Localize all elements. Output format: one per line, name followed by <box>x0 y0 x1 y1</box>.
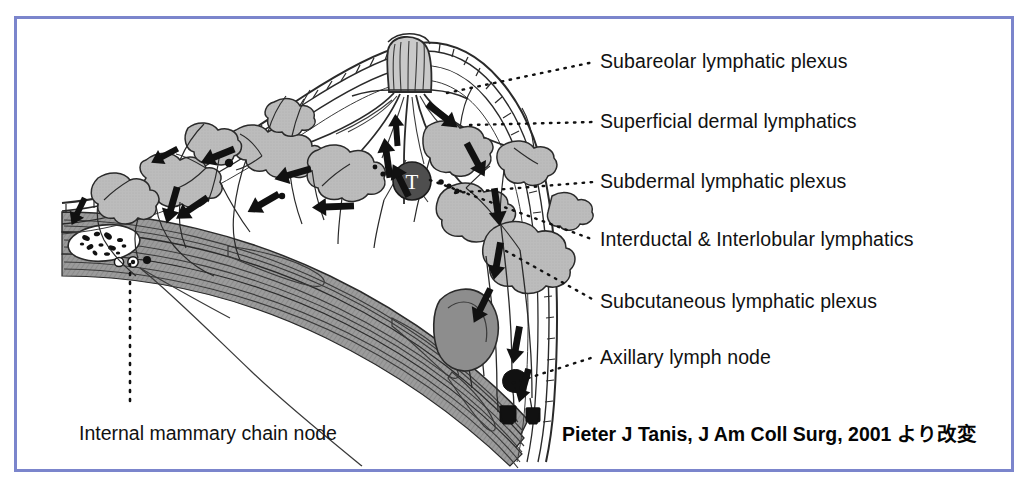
label-subdermal-lymphatic-plexus: Subdermal lymphatic plexus <box>600 172 846 192</box>
label-superficial-dermal-lymphatics: Superficial dermal lymphatics <box>600 112 857 132</box>
slide-root: T <box>0 0 1030 489</box>
label-internal-mammary-chain-node: Internal mammary chain node <box>79 424 337 444</box>
label-axillary-lymph-node: Axillary lymph node <box>600 348 771 368</box>
label-interductal-interlobular-lymphatics: Interductal & Interlobular lymphatics <box>600 230 914 250</box>
source-citation: Pieter J Tanis, J Am Coll Surg, 2001 より改… <box>562 425 977 445</box>
axillary-tail <box>434 289 499 371</box>
label-subcutaneous-lymphatic-plexus: Subcutaneous lymphatic plexus <box>600 292 877 312</box>
label-subareolar-lymphatic-plexus: Subareolar lymphatic plexus <box>600 52 848 72</box>
